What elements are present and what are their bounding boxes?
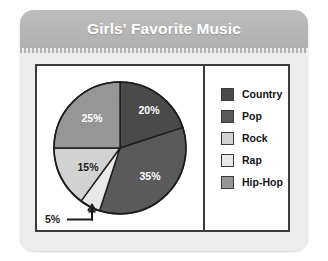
legend-label-rock: Rock (242, 132, 268, 144)
legend-label-pop: Pop (242, 110, 262, 122)
pie-label-country: 20% (138, 104, 160, 116)
pie-chart-area: 20% 35% 15% 25% 5% (37, 66, 203, 230)
legend-swatch-rap (221, 154, 234, 167)
pie-label-rock: 15% (77, 161, 99, 173)
chart-card: Girls' Favorite Music 20% (20, 10, 308, 251)
legend-swatch-country (221, 88, 234, 101)
legend-item-rap[interactable]: Rap (221, 149, 284, 171)
pie-label-hiphop: 25% (81, 112, 103, 124)
legend-label-hiphop: Hip-Hop (242, 176, 283, 188)
card-header: Girls' Favorite Music (20, 10, 308, 48)
legend-item-hiphop[interactable]: Hip-Hop (221, 171, 284, 193)
page-title: Girls' Favorite Music (20, 10, 308, 48)
legend-swatch-rock (221, 132, 234, 145)
legend-item-rock[interactable]: Rock (221, 127, 284, 149)
card-body: 20% 35% 15% 25% 5% Country (20, 53, 308, 251)
legend-label-country: Country (242, 88, 282, 100)
pie-chart-svg: 20% 35% 15% 25% 5% (37, 66, 203, 230)
legend-item-pop[interactable]: Pop (221, 105, 284, 127)
pie-label-pop: 35% (139, 170, 161, 182)
legend-swatch-pop (221, 110, 234, 123)
chart-frame: 20% 35% 15% 25% 5% Country (35, 64, 290, 232)
legend-swatch-hiphop (221, 176, 234, 189)
legend-item-country[interactable]: Country (221, 83, 284, 105)
legend-list: Country Pop Rock Rap (221, 83, 284, 193)
legend-label-rap: Rap (242, 154, 262, 166)
chart-legend: Country Pop Rock Rap (205, 66, 288, 230)
pie-callout-label-rap: 5% (45, 213, 61, 225)
